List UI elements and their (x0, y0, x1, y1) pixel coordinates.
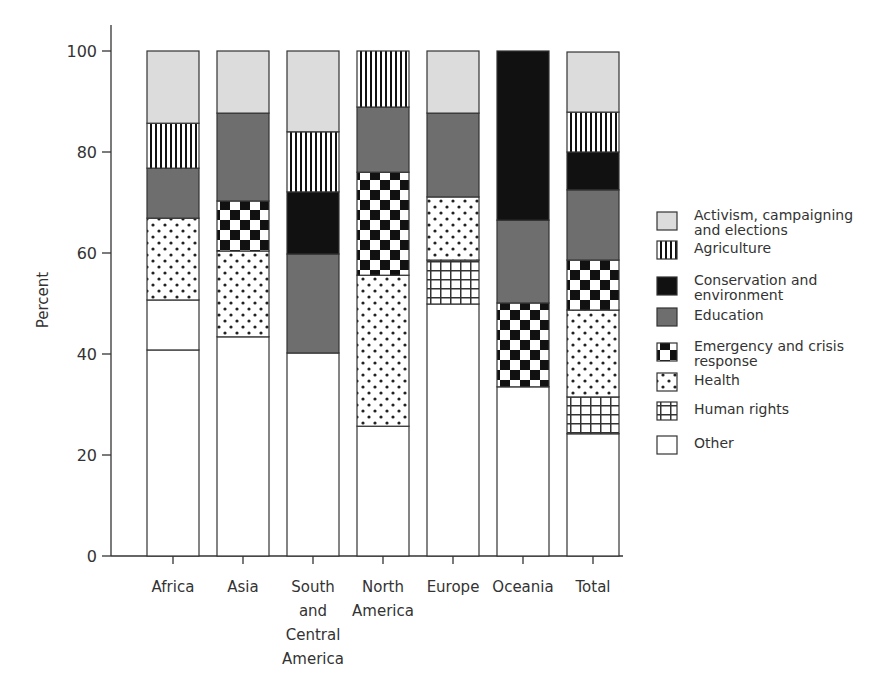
legend-swatch (657, 241, 677, 259)
legend-label: Education (694, 307, 764, 323)
bar-segment (147, 123, 199, 168)
bar-segment (147, 168, 199, 218)
bar-segment (427, 113, 479, 197)
bar-segment (567, 152, 619, 190)
bar-segment (217, 51, 269, 113)
bar-segment (357, 275, 409, 426)
bars (147, 51, 619, 564)
legend-item: Health (657, 372, 740, 391)
y-tick-label: 80 (77, 143, 97, 162)
bar-segment (217, 251, 269, 337)
y-tick-label: 60 (77, 244, 97, 263)
legend-label: Activism, campaigningand elections (694, 207, 853, 238)
bar-south-and-central-america (287, 51, 339, 556)
bar-asia (217, 51, 269, 556)
bar-oceania (497, 51, 549, 556)
legend-label: Human rights (694, 401, 789, 417)
bar-segment (147, 350, 199, 556)
legend-swatch (657, 343, 677, 361)
legend-item: Education (657, 307, 764, 326)
bar-segment (357, 172, 409, 275)
legend-swatch (657, 277, 677, 295)
bar-africa (147, 51, 199, 556)
stacked-bar-chart: 020406080100Percent AfricaAsiaSouthandCe… (0, 0, 895, 694)
legend-swatch (657, 308, 677, 326)
legend-swatch (657, 402, 677, 420)
legend: Activism, campaigningand electionsAgricu… (657, 207, 853, 454)
legend-label: Agriculture (694, 240, 771, 256)
legend-swatch (657, 373, 677, 391)
bar-segment (427, 51, 479, 113)
bar-segment (287, 51, 339, 132)
bar-segment (567, 434, 619, 556)
bar-segment (497, 220, 549, 303)
bar-segment (217, 113, 269, 201)
legend-swatch (657, 212, 677, 230)
bar-segment (357, 107, 409, 172)
x-category-label: Oceania (492, 578, 553, 596)
legend-item: Emergency and crisisresponse (657, 338, 844, 369)
bar-segment (497, 387, 549, 556)
bar-segment (567, 112, 619, 152)
legend-label: Health (694, 372, 740, 388)
legend-label: Other (694, 435, 734, 451)
x-category-label: SouthandCentralAmerica (282, 578, 344, 668)
x-category-label: Europe (427, 578, 480, 596)
y-tick-label: 100 (66, 42, 97, 61)
bar-segment (427, 197, 479, 260)
legend-item: Other (657, 435, 734, 454)
bar-segment (427, 260, 479, 304)
x-category-label: Africa (152, 578, 195, 596)
bar-segment (357, 426, 409, 556)
x-category-label: Total (574, 578, 610, 596)
legend-label: Conservation andenvironment (694, 272, 817, 303)
legend-label: Emergency and crisisresponse (694, 338, 844, 369)
bar-total (567, 52, 619, 556)
legend-item: Human rights (657, 401, 789, 420)
y-tick-label: 20 (77, 446, 97, 465)
bar-segment (497, 303, 549, 387)
bar-segment (287, 353, 339, 556)
bar-segment (567, 52, 619, 112)
bar-segment (427, 304, 479, 556)
bar-segment (567, 310, 619, 397)
x-axis-labels: AfricaAsiaSouthandCentralAmericaNorthAme… (152, 578, 611, 668)
bar-segment (147, 51, 199, 123)
legend-item: Agriculture (657, 240, 771, 259)
bar-segment (357, 51, 409, 107)
bar-segment (217, 201, 269, 251)
x-category-label: Asia (227, 578, 258, 596)
y-axis-title: Percent (34, 272, 52, 329)
y-tick-label: 40 (77, 345, 97, 364)
bar-segment (287, 132, 339, 192)
legend-item: Activism, campaigningand elections (657, 207, 853, 238)
bar-segment (567, 397, 619, 434)
bar-segment (217, 337, 269, 556)
bar-segment (567, 260, 619, 310)
bar-segment (147, 218, 199, 300)
bar-segment (287, 254, 339, 353)
legend-item: Conservation andenvironment (657, 272, 817, 303)
bar-segment (567, 190, 619, 260)
bar-north-america (357, 51, 409, 556)
legend-swatch (657, 436, 677, 454)
bar-segment (287, 192, 339, 254)
bar-europe (427, 51, 479, 556)
y-tick-label: 0 (87, 547, 97, 566)
bar-segment (147, 300, 199, 350)
x-category-label: NorthAmerica (352, 578, 414, 620)
bar-segment (497, 51, 549, 220)
